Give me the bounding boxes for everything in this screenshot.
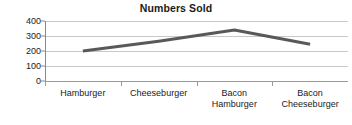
x-axis-tick-mark xyxy=(121,82,122,86)
x-axis-tick-label: Hamburger xyxy=(60,88,105,99)
y-axis-tick-label: 300 xyxy=(0,31,41,41)
y-axis-tick-labels: 4003002001000 xyxy=(0,0,41,125)
x-axis-tick-mark xyxy=(197,82,198,86)
x-axis-tick-label-line: Cheeseburger xyxy=(282,99,339,110)
x-axis-tick-label-line: Hamburger xyxy=(212,99,257,110)
line-chart: Numbers Sold 4003002001000 HamburgerChee… xyxy=(0,0,352,125)
chart-title: Numbers Sold xyxy=(0,2,352,14)
x-axis-tick-label-line: Hamburger xyxy=(60,88,105,98)
x-axis-tick-label-line: Bacon xyxy=(297,88,323,98)
x-axis-tick-label: BaconCheeseburger xyxy=(282,88,339,110)
y-axis-tick-label: 0 xyxy=(0,76,41,86)
x-axis-tick-label: Cheeseburger xyxy=(130,88,187,99)
x-axis-tick-label: BaconHamburger xyxy=(212,88,257,110)
y-axis-tick-label: 200 xyxy=(0,46,41,56)
y-axis-tick-label: 400 xyxy=(0,16,41,26)
x-axis-tick-mark xyxy=(45,82,46,86)
series-line-numbers-sold xyxy=(45,21,348,81)
y-axis-tick-label: 100 xyxy=(0,61,41,71)
x-axis-tick-mark xyxy=(272,82,273,86)
x-axis-tick-label-line: Cheeseburger xyxy=(130,88,187,98)
x-axis-tick-label-line: Bacon xyxy=(222,88,248,98)
